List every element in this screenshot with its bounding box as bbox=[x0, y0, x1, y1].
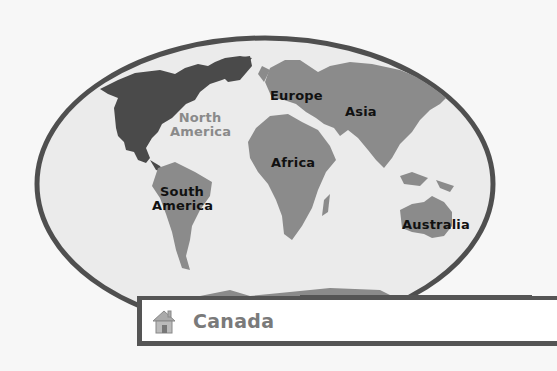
label-europe: Europe bbox=[270, 89, 323, 103]
label-australia: Australia bbox=[402, 218, 470, 232]
label-south-america: South America bbox=[152, 185, 212, 213]
label-north-america: North America bbox=[170, 111, 230, 139]
answer-text: Canada bbox=[193, 310, 274, 332]
home-icon[interactable] bbox=[150, 307, 178, 335]
answer-bar: Canada bbox=[137, 296, 557, 346]
label-asia: Asia bbox=[345, 105, 377, 119]
label-africa: Africa bbox=[271, 156, 315, 170]
ocean-ellipse bbox=[37, 38, 493, 330]
